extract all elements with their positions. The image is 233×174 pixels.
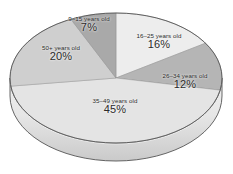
pie-top-face — [10, 13, 222, 143]
pie-chart-graphic — [0, 0, 233, 174]
pie-chart: 9–15 years old 7% 16–25 years old 16% 26… — [0, 0, 233, 174]
